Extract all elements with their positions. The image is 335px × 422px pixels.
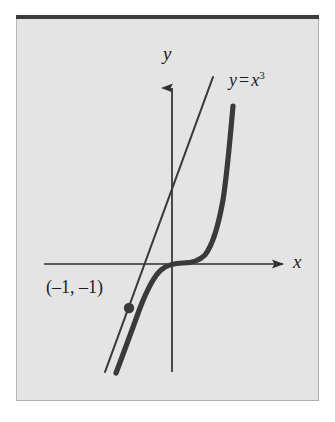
curve-equation-label: y=x3 [229, 71, 265, 89]
equation-base: x [251, 70, 259, 90]
equation-operator: = [237, 70, 251, 90]
x-axis-label: x [293, 252, 301, 271]
y-axis-label: y [163, 44, 171, 63]
equation-lhs: y [229, 70, 237, 90]
tangent-point-marker [124, 303, 134, 313]
equation-exponent: 3 [259, 69, 265, 81]
axes-group [44, 88, 283, 372]
cubic-curve [116, 106, 233, 373]
figure-root: y x y=x3 (–1, –1) [0, 0, 335, 422]
tangent-line [105, 77, 213, 372]
point-annotation-label: (–1, –1) [46, 278, 103, 296]
